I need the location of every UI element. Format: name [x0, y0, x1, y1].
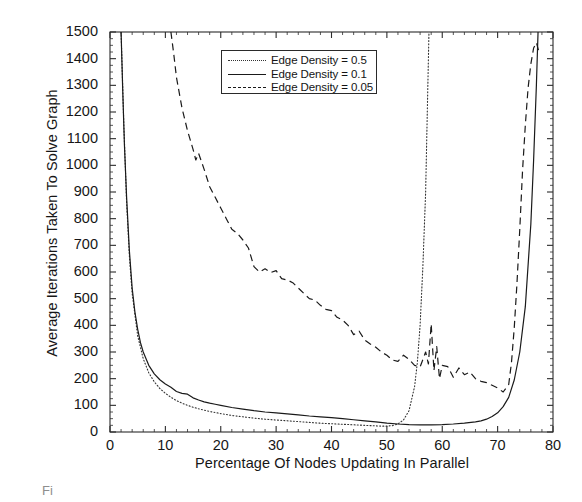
figure-container: Average Iterations Taken To Solve Graph … [0, 0, 582, 502]
legend-swatch-dotted-icon [228, 54, 266, 66]
legend-label-1: Edge Density = 0.1 [271, 68, 367, 80]
legend-swatch-solid-icon [228, 68, 266, 80]
y-tick-label: 1500 [36, 23, 98, 39]
legend-label-2: Edge Density = 0.05 [271, 81, 373, 93]
x-tick-label: 10 [140, 437, 190, 453]
y-tick-label: 700 [36, 236, 98, 252]
y-tick-label: 1300 [36, 76, 98, 92]
x-tick-label: 0 [85, 437, 135, 453]
y-tick-label: 200 [36, 370, 98, 386]
y-tick-label: 400 [36, 316, 98, 332]
legend-label-0: Edge Density = 0.5 [271, 54, 367, 66]
x-tick-label: 20 [196, 437, 246, 453]
y-tick-label: 1200 [36, 103, 98, 119]
y-tick-label: 500 [36, 290, 98, 306]
x-tick-label: 70 [473, 437, 523, 453]
y-tick-label: 1000 [36, 156, 98, 172]
legend: Edge Density = 0.5 Edge Density = 0.1 Ed… [221, 50, 377, 94]
y-tick-label: 100 [36, 396, 98, 412]
legend-item-1: Edge Density = 0.1 [222, 67, 376, 81]
y-tick-label: 1100 [36, 130, 98, 146]
x-tick-label: 40 [307, 437, 357, 453]
legend-item-0: Edge Density = 0.5 [222, 53, 376, 67]
x-axis-title: Percentage Of Nodes Updating In Parallel [110, 455, 554, 471]
legend-swatch-dashed-icon [228, 81, 266, 93]
x-tick-label: 30 [251, 437, 301, 453]
y-tick-label: 1400 [36, 50, 98, 66]
x-tick-label: 80 [528, 437, 578, 453]
caption-strip: Fi [0, 486, 582, 502]
y-tick-label: 900 [36, 183, 98, 199]
y-tick-label: 600 [36, 263, 98, 279]
caption-text: Fi [42, 486, 53, 498]
y-tick-label: 800 [36, 210, 98, 226]
y-tick-label: 300 [36, 343, 98, 359]
x-tick-label: 60 [417, 437, 467, 453]
legend-item-2: Edge Density = 0.05 [222, 80, 376, 94]
x-tick-label: 50 [362, 437, 412, 453]
